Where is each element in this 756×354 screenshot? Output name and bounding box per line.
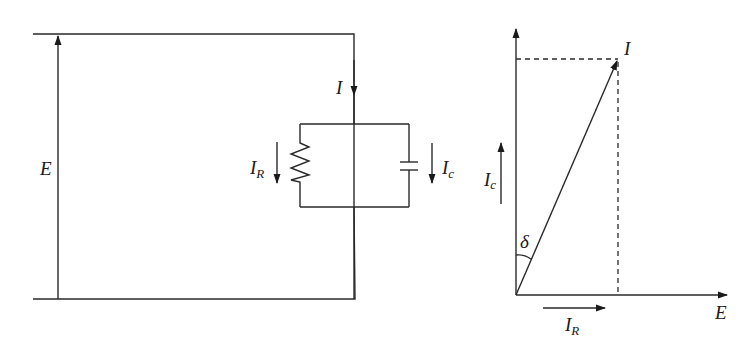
resistive-current-label: IR	[564, 314, 579, 338]
capacitor	[400, 124, 418, 207]
circuit-schematic: E I IR Ic	[33, 34, 454, 299]
current-phasor	[516, 61, 617, 295]
phasor-diagram: E I Ic IR δ	[483, 29, 727, 338]
current-phasor-label: I	[623, 38, 632, 59]
bottom-wire	[33, 207, 355, 299]
top-wire	[33, 34, 354, 124]
resistor	[291, 124, 309, 207]
capacitor-current-label: Ic	[441, 157, 454, 181]
loss-angle-arc	[516, 255, 531, 259]
voltage-axis-label: E	[714, 302, 727, 323]
capacitive-current-label: Ic	[483, 169, 496, 192]
source-voltage-label: E	[39, 158, 52, 179]
resistor-current-label: IR	[249, 157, 264, 181]
total-current-label: I	[335, 77, 344, 98]
parallel-rc-diagram: E I IR Ic	[0, 0, 756, 354]
loss-angle-label: δ	[520, 231, 530, 252]
